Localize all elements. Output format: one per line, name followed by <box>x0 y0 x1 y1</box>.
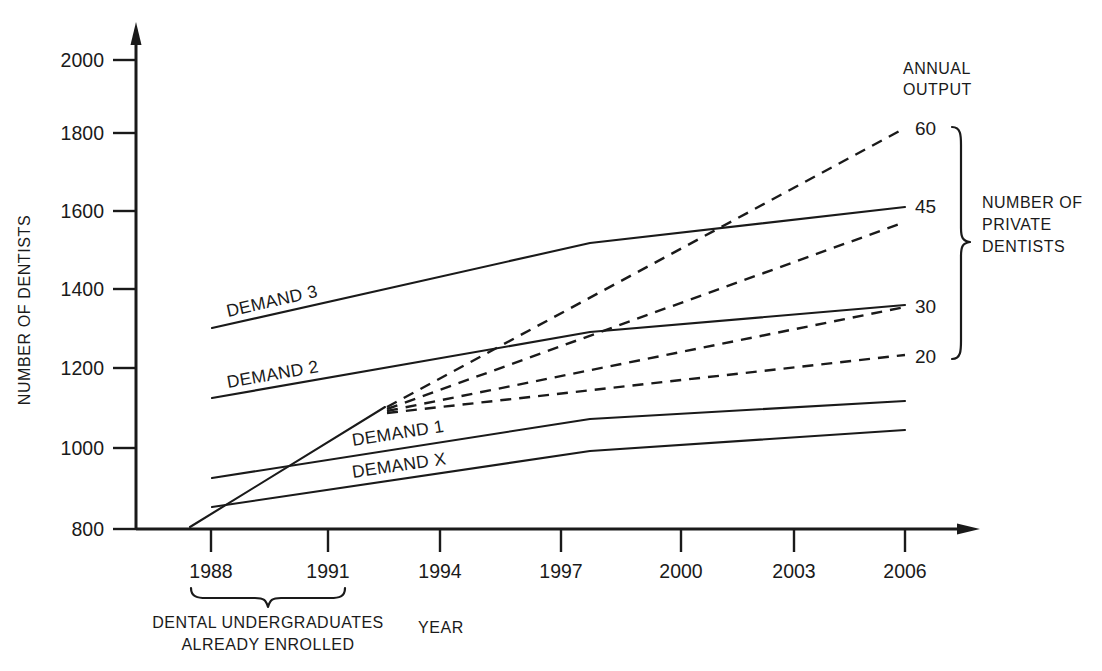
chart-root: 2000 1800 1600 1400 1200 1000 800 1988 1… <box>0 0 1102 671</box>
y-tick-label-1800: 1800 <box>61 122 105 144</box>
y-tick-label-1200: 1200 <box>61 357 105 379</box>
series-line-demand-1 <box>212 401 905 478</box>
annual-output-header: ANNUAL OUTPUT <box>903 60 972 98</box>
series-line-output-30 <box>387 307 905 411</box>
brace-bottom-horizontal <box>191 588 345 607</box>
x-tick-label-1997: 1997 <box>539 560 582 582</box>
series-line-demand-3 <box>212 207 905 328</box>
brace-right-vertical <box>952 127 970 359</box>
x-tick-label-2003: 2003 <box>772 560 815 582</box>
output-value-30: 30 <box>915 296 936 317</box>
enrolled-brace: DENTAL UNDERGRADUATES ALREADY ENROLLED <box>152 588 384 653</box>
x-axis-arrowhead <box>957 524 980 535</box>
annual-output-line2: OUTPUT <box>903 81 972 98</box>
private-dentists-line1: NUMBER OF <box>982 194 1083 211</box>
axes-group <box>131 22 981 535</box>
y-tick-label-2000: 2000 <box>61 49 105 71</box>
y-axis-arrowhead <box>131 22 142 45</box>
enrolled-label-line2: ALREADY ENROLLED <box>181 636 354 653</box>
y-tick-label-1000: 1000 <box>61 437 105 459</box>
series-line-demand-2 <box>212 305 905 398</box>
private-dentists-line2: PRIVATE <box>982 216 1052 233</box>
y-tick-label-800: 800 <box>71 518 104 540</box>
dentist-supply-demand-chart: 2000 1800 1600 1400 1200 1000 800 1988 1… <box>0 0 1102 671</box>
x-tick-label-2000: 2000 <box>659 560 703 582</box>
output-value-60: 60 <box>915 118 936 139</box>
series-line-output-20 <box>387 355 905 413</box>
private-dentists-line3: DENTISTS <box>982 238 1065 255</box>
series-line-output-45 <box>387 222 905 409</box>
y-axis-title: NUMBER OF DENTISTS <box>16 215 33 405</box>
enrolled-label-line1: DENTAL UNDERGRADUATES <box>152 614 384 631</box>
x-axis-title: YEAR <box>418 619 464 636</box>
private-dentists-brace: NUMBER OF PRIVATE DENTISTS <box>952 127 1083 359</box>
x-axis-ticks: 1988 1991 1994 1997 2000 2003 2006 <box>189 529 926 582</box>
annual-output-line1: ANNUAL <box>903 60 971 77</box>
series-line-demand-x <box>212 430 905 507</box>
y-tick-label-1400: 1400 <box>61 278 105 300</box>
y-axis-ticks: 2000 1800 1600 1400 1200 1000 800 <box>61 49 136 540</box>
series-line-output-60 <box>387 128 905 407</box>
y-tick-label-1600: 1600 <box>61 200 105 222</box>
series-labels-group: DEMAND 3 DEMAND 2 DEMAND 1 DEMAND X <box>224 281 447 482</box>
output-value-20: 20 <box>915 346 936 367</box>
x-tick-label-1994: 1994 <box>418 560 462 582</box>
x-tick-label-1991: 1991 <box>306 560 349 582</box>
output-value-45: 45 <box>915 196 936 217</box>
output-scale-labels: 60 45 30 20 <box>915 118 936 367</box>
x-tick-label-2006: 2006 <box>883 560 926 582</box>
x-tick-label-1988: 1988 <box>189 560 232 582</box>
